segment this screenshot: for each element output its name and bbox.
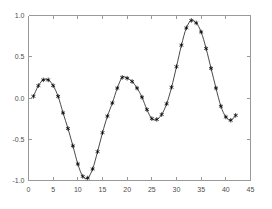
- y-tick-label: 0.5: [15, 53, 25, 60]
- x-tick-label: 5: [51, 186, 55, 193]
- x-tick-label: 15: [99, 186, 107, 193]
- y-tick-label: -1.0: [12, 177, 24, 184]
- x-tick-label: 35: [197, 186, 205, 193]
- line-chart: 051015202530354045 -1.0-0.50.00.51.0: [0, 0, 272, 209]
- x-tick-label: 40: [222, 186, 230, 193]
- chart-figure: 051015202530354045 -1.0-0.50.00.51.0: [0, 0, 272, 209]
- chart-background: [0, 0, 272, 209]
- y-tick-label: 0.0: [15, 95, 25, 102]
- x-tick-label: 25: [148, 186, 156, 193]
- x-tick-label: 20: [123, 186, 131, 193]
- y-tick-label: 1.0: [15, 12, 25, 19]
- x-tick-label: 45: [247, 186, 255, 193]
- x-tick-label: 30: [173, 186, 181, 193]
- x-tick-label: 10: [74, 186, 82, 193]
- x-tick-label: 0: [27, 186, 31, 193]
- y-tick-label: -0.5: [12, 136, 24, 143]
